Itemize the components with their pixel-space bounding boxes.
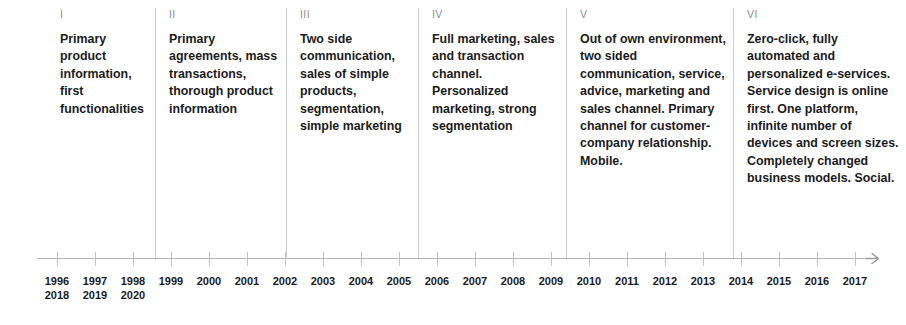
year-primary: 2003	[311, 275, 335, 287]
phase-description: Primary agreements, mass transactions, t…	[169, 31, 282, 118]
year-primary: 2016	[805, 275, 829, 287]
year-primary: 2006	[425, 275, 449, 287]
year-primary: 2005	[387, 275, 411, 287]
axis-tick	[361, 252, 362, 266]
year-label: 2010	[569, 274, 609, 288]
axis-tick	[855, 252, 856, 266]
axis-tick	[209, 252, 210, 266]
phase-description: Primary product information, first funct…	[60, 31, 152, 118]
phase-body: VOut of own environment, two sided commu…	[580, 8, 729, 170]
year-primary: 1997	[83, 275, 107, 287]
year-primary: 2008	[501, 275, 525, 287]
year-primary: 2014	[729, 275, 753, 287]
axis-tick	[703, 252, 704, 266]
axis-tick	[133, 252, 134, 266]
phase-body: IIPrimary agreements, mass transactions,…	[169, 8, 282, 118]
axis-tick	[285, 252, 286, 266]
year-label: 2014	[721, 274, 761, 288]
phase-divider	[566, 8, 567, 258]
axis-tick	[95, 252, 96, 266]
phase-divider	[286, 8, 287, 258]
phase-divider	[418, 8, 419, 258]
year-label: 19972019	[75, 274, 115, 302]
year-primary: 2010	[577, 275, 601, 287]
year-primary: 2004	[349, 275, 373, 287]
axis-tick	[665, 252, 666, 266]
phase-body: IVFull marketing, sales and transaction …	[432, 8, 562, 135]
phase-numeral: IV	[432, 8, 562, 20]
axis-tick	[399, 252, 400, 266]
phase-numeral: III	[300, 8, 414, 20]
year-label: 2004	[341, 274, 381, 288]
year-label: 2012	[645, 274, 685, 288]
phase-numeral: I	[60, 8, 152, 20]
axis-tick	[323, 252, 324, 266]
timeline-axis-line	[38, 258, 878, 259]
phase-body: VIZero-click, fully automated and person…	[747, 8, 899, 188]
year-primary: 1999	[159, 275, 183, 287]
year-label: 2005	[379, 274, 419, 288]
phase-numeral: V	[580, 8, 729, 20]
year-label: 2006	[417, 274, 457, 288]
year-label: 2001	[227, 274, 267, 288]
year-primary: 2012	[653, 275, 677, 287]
year-label: 2008	[493, 274, 533, 288]
phase-body: IPrimary product information, first func…	[60, 8, 152, 118]
axis-tick	[779, 252, 780, 266]
year-primary: 2000	[197, 275, 221, 287]
year-secondary: 2019	[75, 288, 115, 302]
phase-description: Two side communication, sales of simple …	[300, 31, 414, 135]
year-primary: 2001	[235, 275, 259, 287]
phase-description: Out of own environment, two sided commun…	[580, 31, 729, 170]
year-label: 2013	[683, 274, 723, 288]
year-primary: 1996	[45, 275, 69, 287]
axis-tick	[171, 252, 172, 266]
year-primary: 2009	[539, 275, 563, 287]
axis-tick	[741, 252, 742, 266]
phase-divider	[155, 8, 156, 258]
phase-columns: IPrimary product information, first func…	[0, 0, 906, 258]
year-primary: 2015	[767, 275, 791, 287]
year-label: 2000	[189, 274, 229, 288]
year-label: 2017	[835, 274, 875, 288]
year-label: 2003	[303, 274, 343, 288]
year-label: 2016	[797, 274, 837, 288]
axis-tick	[627, 252, 628, 266]
arrow-right-icon	[866, 252, 880, 265]
year-secondary: 2018	[37, 288, 77, 302]
year-primary: 2013	[691, 275, 715, 287]
year-primary: 2002	[273, 275, 297, 287]
axis-tick	[551, 252, 552, 266]
year-label: 19982020	[113, 274, 153, 302]
year-primary: 2011	[615, 275, 639, 287]
phase-description: Full marketing, sales and transaction ch…	[432, 31, 562, 135]
year-label: 2011	[607, 274, 647, 288]
year-primary: 2017	[843, 275, 867, 287]
phase-numeral: VI	[747, 8, 899, 20]
axis-tick	[57, 252, 58, 266]
year-primary: 1998	[121, 275, 145, 287]
timeline-axis-area: 1996201819972019199820201999200020012002…	[0, 250, 906, 325]
phase-description: Zero-click, fully automated and personal…	[747, 31, 899, 188]
year-label: 2002	[265, 274, 305, 288]
axis-tick	[513, 252, 514, 266]
phase-body: IIITwo side communication, sales of simp…	[300, 8, 414, 135]
axis-tick	[817, 252, 818, 266]
year-secondary: 2020	[113, 288, 153, 302]
year-label: 2009	[531, 274, 571, 288]
axis-tick	[475, 252, 476, 266]
year-label: 19962018	[37, 274, 77, 302]
axis-tick	[437, 252, 438, 266]
phase-divider	[733, 8, 734, 258]
phase-numeral: II	[169, 8, 282, 20]
year-label: 2015	[759, 274, 799, 288]
axis-tick	[589, 252, 590, 266]
year-primary: 2007	[463, 275, 487, 287]
year-label: 2007	[455, 274, 495, 288]
year-label: 1999	[151, 274, 191, 288]
axis-tick	[247, 252, 248, 266]
